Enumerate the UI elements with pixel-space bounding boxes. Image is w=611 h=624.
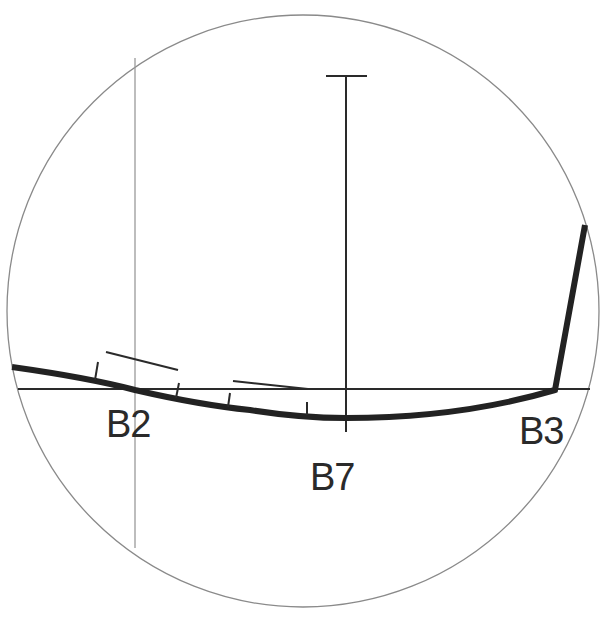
label-b7: B7 <box>310 456 354 498</box>
tick-mark-1 <box>95 362 98 380</box>
detail-circle-boundary <box>7 15 599 607</box>
tick-mark-2 <box>176 383 179 398</box>
slanted-offset-line-1 <box>106 352 178 370</box>
slanted-offset-line-2 <box>233 381 308 389</box>
detail-diagram: B2 B7 B3 <box>0 0 611 624</box>
label-b3: B3 <box>519 410 563 452</box>
label-b2: B2 <box>106 403 150 445</box>
